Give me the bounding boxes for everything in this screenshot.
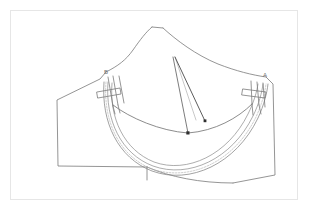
inner-cup-curve [113, 104, 252, 133]
dart-apex-point [186, 131, 189, 134]
underwire-outer-curve [104, 82, 268, 175]
top-peak-flat [152, 27, 163, 28]
label-a: A [263, 72, 267, 78]
underwire-middle-curve [108, 82, 263, 170]
bottom-edge-curve [147, 167, 233, 183]
left-wing-panel-outline [57, 72, 147, 167]
underwire-seam-group [104, 82, 268, 175]
left-strap-horizontal-band [97, 88, 121, 98]
top-peak-right-curve [163, 28, 266, 77]
label-b: B [104, 69, 108, 75]
inner-cup-curve-group [113, 104, 252, 133]
technical-drawing-canvas: A B [0, 0, 328, 218]
dart-upper-point [204, 119, 207, 122]
left-strap-band-right [119, 76, 124, 103]
screenshot-root: A B [0, 0, 328, 218]
right-strap-tail-left [252, 104, 253, 115]
right-wing-panel-outline [233, 77, 275, 183]
left-strap-band-mid [113, 76, 118, 105]
left-strap-band-left [108, 77, 113, 106]
dart-group [173, 57, 206, 135]
garment-outline-group [57, 27, 275, 183]
right-strap-band-left [251, 81, 252, 104]
dart-line-middle [175, 57, 196, 120]
right-strap-horizontal-band [242, 89, 266, 98]
left-strap-assembly [97, 76, 124, 114]
underwire-inner-curve [112, 83, 258, 166]
top-peak-left-curve [106, 27, 152, 72]
dashed-stitch-line [106, 82, 266, 173]
